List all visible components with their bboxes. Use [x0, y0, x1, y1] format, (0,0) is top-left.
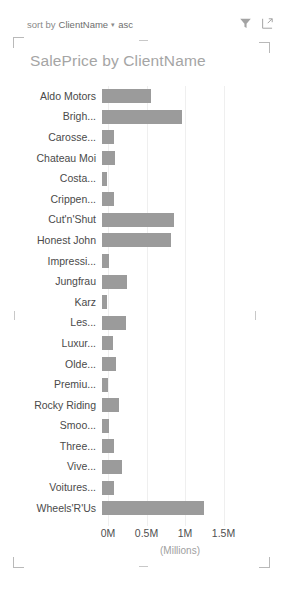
x-axis: 0M0.5M1M1.5M (Millions) [0, 527, 284, 567]
category-label: Smoo... [0, 419, 102, 432]
chart-title: SalePrice by ClientName [30, 52, 206, 70]
bar[interactable] [102, 295, 107, 309]
bar-row[interactable]: Brigh... [0, 107, 284, 128]
bar-cell [102, 189, 284, 210]
sort-field-button[interactable]: ClientName [59, 19, 109, 30]
sort-control[interactable]: sort byClientName▾asc [27, 18, 136, 33]
bar-row[interactable]: Vive... [0, 457, 284, 478]
category-label: Three... [0, 440, 102, 453]
bar[interactable] [102, 151, 115, 165]
category-label: Vive... [0, 460, 102, 473]
bar-cell [102, 271, 284, 292]
bar[interactable] [102, 481, 114, 495]
bar-cell [102, 354, 284, 375]
bar[interactable] [102, 130, 114, 144]
bar-row[interactable]: Luxur... [0, 333, 284, 354]
visual-header-icons [239, 17, 274, 30]
bar-row[interactable]: Voitures... [0, 477, 284, 498]
bar-row[interactable]: Three... [0, 436, 284, 457]
bar[interactable] [102, 357, 116, 371]
bar-cell [102, 168, 284, 189]
category-label: Karz [0, 296, 102, 309]
bar-chart-visual[interactable]: sort byClientName▾asc SalePrice by Clie [0, 0, 284, 599]
bar-cell [102, 292, 284, 313]
bar[interactable] [102, 501, 204, 515]
bar[interactable] [102, 172, 107, 186]
category-label: Aldo Motors [0, 90, 102, 103]
bar-rows: Aldo MotorsBrigh...Carosse...Chateau Moi… [0, 86, 284, 518]
category-label: Cut'n'Shut [0, 213, 102, 226]
bar-row[interactable]: Premiu... [0, 374, 284, 395]
bar[interactable] [102, 316, 126, 330]
bar-row[interactable]: Wheels'R'Us [0, 498, 284, 519]
bar-row[interactable]: Chateau Moi [0, 148, 284, 169]
x-axis-ticks: 0M0.5M1M1.5M [0, 527, 284, 543]
bar-row[interactable]: Karz [0, 292, 284, 313]
category-label: Voitures... [0, 481, 102, 494]
bar-cell [102, 477, 284, 498]
axis-tick-label: 0.5M [135, 527, 158, 539]
bar[interactable] [102, 336, 113, 350]
category-label: Brigh... [0, 110, 102, 123]
bar[interactable] [102, 254, 109, 268]
bar-row[interactable]: Crippen... [0, 189, 284, 210]
category-label: Premiu... [0, 378, 102, 391]
sort-direction-button[interactable]: asc [118, 19, 133, 30]
selection-handle-top[interactable] [139, 40, 148, 41]
bar-cell [102, 107, 284, 128]
category-label: Les... [0, 316, 102, 329]
bar-row[interactable]: Smoo... [0, 416, 284, 437]
bar-row[interactable]: Costa... [0, 168, 284, 189]
bar[interactable] [102, 213, 174, 227]
chevron-down-icon[interactable]: ▾ [111, 21, 115, 28]
sort-by-label: sort by [27, 19, 56, 30]
category-label: Crippen... [0, 193, 102, 206]
visual-header-toolbar: sort byClientName▾asc [0, 18, 284, 36]
bar-cell [102, 127, 284, 148]
x-axis-caption: (Millions) [0, 545, 284, 556]
bar-cell [102, 498, 284, 519]
bar[interactable] [102, 275, 127, 289]
bar[interactable] [102, 192, 114, 206]
bar-row[interactable]: Impressi... [0, 251, 284, 272]
bar[interactable] [102, 233, 171, 247]
category-label: Carosse... [0, 131, 102, 144]
bar[interactable] [102, 419, 109, 433]
bar[interactable] [102, 378, 108, 392]
bar-row[interactable]: Aldo Motors [0, 86, 284, 107]
bar[interactable] [102, 398, 119, 412]
category-label: Rocky Riding [0, 399, 102, 412]
category-label: Impressi... [0, 255, 102, 268]
bar-row[interactable]: Honest John [0, 230, 284, 251]
bar-cell [102, 333, 284, 354]
bar-cell [102, 395, 284, 416]
axis-tick-label: 1.5M [212, 527, 235, 539]
category-label: Chateau Moi [0, 152, 102, 165]
bar-cell [102, 210, 284, 231]
bar-row[interactable]: Rocky Riding [0, 395, 284, 416]
axis-tick-label: 0M [101, 527, 116, 539]
bar-cell [102, 436, 284, 457]
bar[interactable] [102, 439, 114, 453]
bar[interactable] [102, 460, 122, 474]
bar-row[interactable]: Les... [0, 313, 284, 334]
bar-row[interactable]: Cut'n'Shut [0, 210, 284, 231]
selection-handle-top-right[interactable] [259, 42, 270, 53]
category-label: Wheels'R'Us [0, 502, 102, 515]
bar[interactable] [102, 89, 151, 103]
selection-handle-top-left[interactable] [13, 37, 24, 48]
bar-row[interactable]: Olde... [0, 354, 284, 375]
bar-cell [102, 230, 284, 251]
axis-tick-label: 1M [178, 527, 193, 539]
bar[interactable] [102, 110, 182, 124]
bar-cell [102, 416, 284, 437]
bar-row[interactable]: Jungfrau [0, 271, 284, 292]
bar-cell [102, 251, 284, 272]
bar-cell [102, 374, 284, 395]
focus-mode-icon[interactable] [261, 17, 274, 30]
bar-row[interactable]: Carosse... [0, 127, 284, 148]
filter-funnel-icon[interactable] [239, 17, 252, 30]
plot-area: Aldo MotorsBrigh...Carosse...Chateau Moi… [0, 86, 284, 526]
category-label: Honest John [0, 234, 102, 247]
bar-cell [102, 457, 284, 478]
